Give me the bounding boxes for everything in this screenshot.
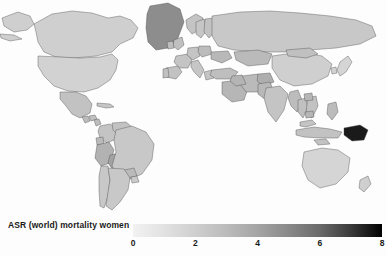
colorbar-tick-label: 6: [317, 238, 322, 248]
map-region: Laos: 2.9: [304, 93, 313, 101]
world-map: Greenland: 5.4Canada: 1.7Alaska: 1.7Unit…: [0, 0, 387, 216]
colorbar-tick-label: 8: [380, 238, 385, 248]
colorbar-tick-label: 2: [193, 238, 198, 248]
legend: ASR (world) mortality women: [0, 216, 387, 256]
map-region: Cambodia: 2.9: [305, 111, 314, 118]
colorbar: [133, 224, 382, 237]
map-region: Portugal: 2.4: [163, 68, 169, 78]
world-map-svg: Greenland: 5.4Canada: 1.7Alaska: 1.7Unit…: [0, 0, 387, 216]
choropleth-figure: Greenland: 5.4Canada: 1.7Alaska: 1.7Unit…: [0, 0, 387, 256]
map-region: South Korea: 1.6: [331, 67, 337, 74]
colorbar-svg: [133, 224, 382, 237]
map-region: Ireland: 2.5: [167, 41, 174, 49]
colorbar-gradient: [133, 224, 382, 237]
legend-title: ASR (world) mortality women: [8, 220, 129, 230]
colorbar-tick-label: 0: [131, 238, 136, 248]
colorbar-ticks: 02468: [133, 238, 382, 254]
colorbar-tick-label: 4: [255, 238, 260, 248]
